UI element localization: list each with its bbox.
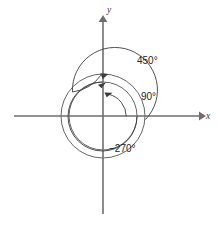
angle-diagram-canvas: x y 450° 90° −270° bbox=[0, 0, 220, 225]
axes-group bbox=[14, 15, 206, 214]
y-axis-label: y bbox=[106, 5, 112, 15]
angle-450-label: 450° bbox=[137, 55, 158, 66]
angle-90-arc bbox=[109, 94, 127, 116]
x-axis-arrowhead bbox=[199, 112, 206, 121]
angle-diagram-figure: x y 450° 90° −270° bbox=[0, 0, 220, 225]
x-axis-label: x bbox=[205, 111, 211, 121]
angle-90-arrowhead bbox=[104, 92, 113, 97]
angle-minus-270-label: −270° bbox=[109, 143, 136, 154]
angle-90-label: 90° bbox=[141, 91, 156, 102]
angle-90-arc-group bbox=[104, 92, 126, 116]
y-axis-arrowhead bbox=[99, 15, 108, 22]
angle-450-arrowhead bbox=[100, 71, 109, 79]
